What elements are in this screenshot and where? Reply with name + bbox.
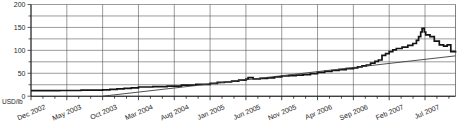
- x-tick-label: Dec 2002: [16, 103, 46, 121]
- x-tick-label: May 2003: [51, 103, 83, 122]
- x-tick-label: Feb 2007: [375, 103, 405, 121]
- x-tick-label: Mar 2004: [124, 103, 154, 121]
- x-tick-label: Nov 2005: [267, 103, 297, 121]
- x-tick-label: Sep 2006: [338, 103, 369, 122]
- x-tick-label: Apr 2006: [304, 103, 333, 122]
- y-tick-label: 150: [14, 24, 26, 31]
- price-series-line: [31, 28, 456, 90]
- x-tick-label: Jul 2007: [413, 103, 440, 120]
- x-tick-label: Jan 2005: [196, 103, 225, 121]
- unit-label: USD/lb: [2, 98, 23, 105]
- y-tick-label: 200: [14, 1, 26, 8]
- uranium-price-chart: 050100150200USD/lbDec 2002May 2003Oct 20…: [0, 0, 457, 139]
- x-tick-label: Jun 2005: [232, 103, 261, 121]
- y-tick-label: 100: [14, 47, 26, 54]
- x-tick-label: Aug 2004: [159, 103, 190, 122]
- y-tick-label: 50: [18, 70, 26, 77]
- chart-canvas: 050100150200USD/lbDec 2002May 2003Oct 20…: [0, 0, 457, 139]
- x-tick-label: Oct 2003: [89, 103, 118, 121]
